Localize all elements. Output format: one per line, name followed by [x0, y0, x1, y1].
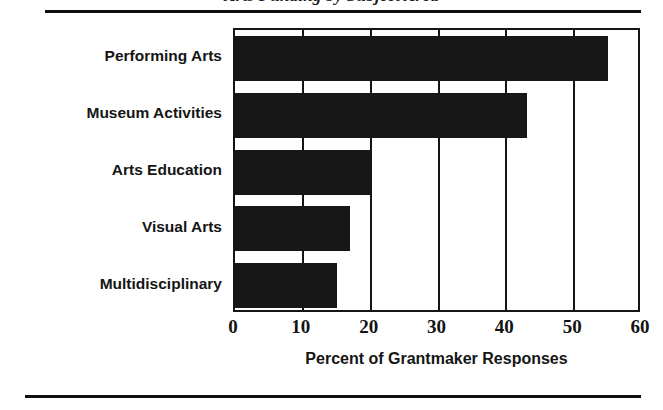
top-divider-rule [45, 10, 641, 13]
bar [235, 93, 527, 138]
x-axis-title: Percent of Grantmaker Responses [233, 350, 640, 368]
bar [235, 263, 337, 308]
chart-figure: Arts Funding by Subject Area Performing … [0, 0, 663, 410]
category-axis-labels: Performing ArtsMuseum ActivitiesArts Edu… [0, 28, 222, 312]
category-label: Arts Education [0, 162, 222, 178]
bar [235, 150, 371, 195]
x-tick-label: 10 [291, 316, 310, 338]
x-axis-tick-labels: 0102030405060 [233, 316, 640, 344]
bottom-divider-rule [25, 395, 641, 398]
x-tick-label: 60 [631, 316, 650, 338]
x-tick-label: 30 [427, 316, 446, 338]
chart-title: Arts Funding by Subject Area [0, 0, 663, 6]
x-tick-label: 40 [495, 316, 514, 338]
plot-area [233, 28, 640, 312]
category-label: Performing Arts [0, 48, 222, 64]
bar [235, 206, 350, 251]
chart-body: Performing ArtsMuseum ActivitiesArts Edu… [0, 28, 663, 312]
x-tick-label: 50 [563, 316, 582, 338]
bar [235, 36, 608, 81]
category-label: Visual Arts [0, 219, 222, 235]
x-tick-label: 20 [359, 316, 378, 338]
category-label: Multidisciplinary [0, 276, 222, 292]
category-label: Museum Activities [0, 105, 222, 121]
x-tick-label: 0 [228, 316, 238, 338]
plot-inner [235, 30, 638, 310]
